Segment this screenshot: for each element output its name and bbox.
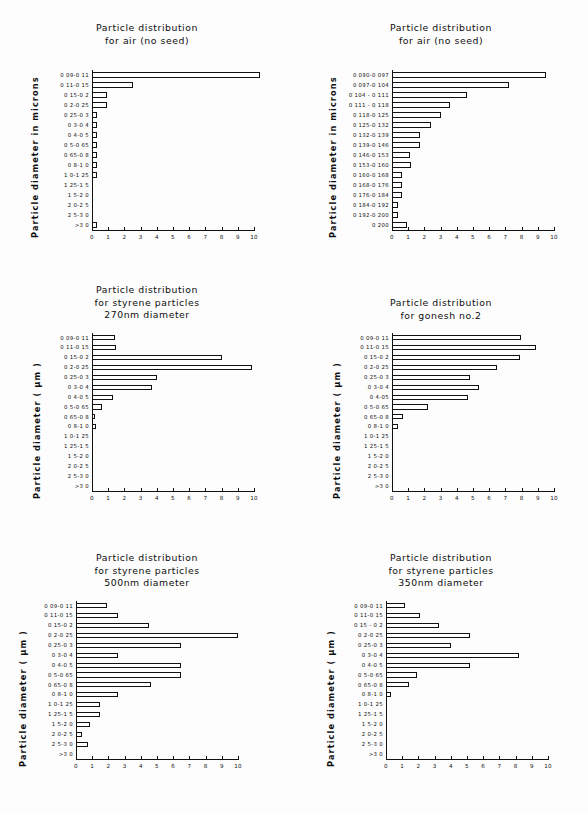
x-axis-tick-label: 4 (149, 234, 165, 240)
bar (92, 82, 133, 87)
y-axis-tick-label: 0 15-0 2 (337, 354, 389, 360)
bar (92, 112, 97, 117)
x-axis-tick (467, 756, 468, 759)
y-axis-tick-label: 0 8-1 0 (331, 691, 383, 697)
chart-title: Particle distributionfor air (no seed) (0, 22, 294, 47)
x-axis-tick-label: 7 (497, 234, 513, 240)
bar (392, 414, 403, 419)
bar (76, 603, 107, 608)
x-axis-tick-label: 2 (116, 234, 132, 240)
y-axis-tick-label: 1 0-1 25 (331, 701, 383, 707)
y-axis-tick-label: 0 8-1 0 (39, 423, 89, 429)
y-axis-tick-label: >3 0 (39, 483, 89, 489)
bar (76, 633, 238, 638)
x-axis-tick-label: 6 (181, 495, 197, 501)
bar (76, 653, 118, 658)
x-axis-tick (392, 488, 393, 491)
y-axis-tick-label: 0 2-0 25 (331, 632, 383, 638)
y-axis-tick-label: 1 0-1 25 (337, 433, 389, 439)
bar (92, 72, 260, 77)
chart-panel-styrene-270nm: Particle distributionfor styrene particl… (0, 281, 294, 552)
x-axis-tick (532, 756, 533, 759)
bar (386, 633, 470, 638)
x-axis-tick (408, 227, 409, 230)
bar (76, 643, 181, 648)
x-axis-tick (554, 488, 555, 491)
x-axis-tick-label: 3 (133, 234, 149, 240)
y-axis-tick-label: 0 132-0 139 (331, 132, 389, 138)
x-axis-tick-label: 1 (100, 234, 116, 240)
x-axis-tick-label: 3 (433, 495, 449, 501)
y-axis-tick-label: 0 4-05 (337, 394, 389, 400)
x-axis-tick (173, 227, 174, 230)
bar (392, 375, 470, 380)
y-axis-tick-label: 0 25-0 3 (39, 112, 89, 118)
x-axis-tick-label: 10 (540, 763, 556, 769)
y-axis-tick-label: 0 5-0 65 (337, 404, 389, 410)
x-axis-tick-label: 8 (508, 763, 524, 769)
x-axis-tick-label: 5 (459, 763, 475, 769)
bar (386, 692, 391, 697)
bar (92, 152, 97, 157)
y-axis-tick-label: 2 5-3 0 (39, 473, 89, 479)
x-axis-tick (254, 227, 255, 230)
x-axis-tick (457, 488, 458, 491)
y-axis-tick-label: 1 5-2 0 (39, 453, 89, 459)
x-axis-tick (457, 227, 458, 230)
x-axis-tick-label: 0 (384, 234, 400, 240)
x-axis-tick-label: 10 (546, 495, 562, 501)
bar (392, 192, 402, 197)
x-axis-tick-label: 8 (214, 234, 230, 240)
x-axis-tick (402, 756, 403, 759)
y-axis-tick-label: 0 3-0 4 (39, 122, 89, 128)
bar (92, 385, 152, 390)
bar (392, 92, 467, 97)
x-axis-tick (124, 227, 125, 230)
y-axis-tick-label: 1 5-2 0 (23, 721, 73, 727)
x-axis-tick (473, 227, 474, 230)
x-axis-tick (157, 488, 158, 491)
x-axis-tick-label: 4 (449, 495, 465, 501)
chart-title: Particle distributionfor styrene particl… (0, 284, 294, 322)
bar (392, 142, 420, 147)
x-axis-tick-label: 6 (181, 234, 197, 240)
bar (92, 395, 113, 400)
y-axis-tick-label: 0 65-0 8 (331, 682, 383, 688)
bar (392, 202, 398, 207)
x-axis-tick (124, 488, 125, 491)
chart-title: Particle distributionfor styrene particl… (294, 552, 588, 590)
y-axis-tick-label: 0 65-0 8 (39, 152, 89, 158)
x-axis-tick (254, 488, 255, 491)
bar (76, 672, 181, 677)
x-axis-tick (141, 756, 142, 759)
y-axis-tick-label: 1 25-1 5 (331, 711, 383, 717)
bar (392, 424, 398, 429)
y-axis-tick-label: 1 25-1 5 (39, 182, 89, 188)
bar (92, 345, 116, 350)
y-axis-tick-label: 0 25-0 3 (39, 374, 89, 380)
x-axis-tick-label: 6 (165, 763, 181, 769)
x-axis-tick (189, 488, 190, 491)
y-axis-tick-label: 0 146-0 153 (331, 152, 389, 158)
x-axis-tick-label: 7 (197, 234, 213, 240)
x-axis-tick-label: 1 (394, 763, 410, 769)
chart-panel-gonesh-no-2: Particle distributionfor gonesh no.2Part… (294, 281, 588, 552)
x-axis-tick-label: 8 (514, 495, 530, 501)
x-axis-tick (173, 756, 174, 759)
x-axis-tick (222, 756, 223, 759)
x-axis-tick (222, 227, 223, 230)
bar (92, 424, 96, 429)
bar (386, 643, 451, 648)
y-axis-tick-label: 1 5-2 0 (39, 192, 89, 198)
x-axis-tick (538, 488, 539, 491)
bar (76, 623, 149, 628)
y-axis-tick-label: 0 2-0 25 (39, 102, 89, 108)
x-axis-line (386, 759, 549, 760)
chart-title-line: 270nm diameter (0, 309, 294, 322)
y-axis-tick-label: 0 2-0 25 (39, 364, 89, 370)
y-axis-tick-label: 0 65-0 8 (337, 414, 389, 420)
x-axis-tick-label: 2 (416, 234, 432, 240)
x-axis-tick-label: 8 (514, 234, 530, 240)
x-axis-tick (473, 488, 474, 491)
x-axis-tick-label: 5 (149, 763, 165, 769)
